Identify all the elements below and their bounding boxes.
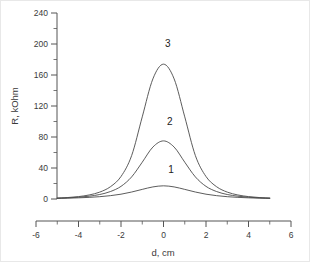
y-tick-label: 0 [43,194,48,204]
data-curve-3 [57,64,270,198]
y-tick-label: 160 [34,70,48,80]
curve-label-2: 2 [167,116,173,127]
x-tick-label: -6 [32,230,40,240]
y-tick-label: 200 [34,39,48,49]
x-tick-labels: -6 -4 -2 0 2 4 6 [32,230,293,240]
curve-annotations: 1 2 3 [165,38,174,175]
chart-figure: 0 40 80 120 160 200 240 -6 -4 [0,0,311,263]
x-tick-label: -4 [75,230,83,240]
x-axis-title: d, cm [151,247,174,258]
y-tick-labels: 0 40 80 120 160 200 240 [34,8,48,204]
y-tick-label: 120 [34,101,48,111]
y-axis-title: R, kOhm [9,87,20,125]
x-axis-ticks [36,221,291,227]
y-tick-label: 40 [39,163,49,173]
curve-label-3: 3 [165,38,171,49]
curve-label-1: 1 [168,164,174,175]
x-tick-label: 2 [204,230,209,240]
data-curves [57,64,270,198]
line-chart-canvas: 0 40 80 120 160 200 240 -6 -4 [0,0,311,263]
x-tick-label: 0 [161,230,166,240]
y-tick-label: 80 [39,132,49,142]
y-axis-ticks [51,13,57,199]
x-tick-label: 6 [289,230,294,240]
data-curve-2 [57,141,270,198]
y-tick-label: 240 [34,8,48,18]
x-tick-label: 4 [246,230,251,240]
x-tick-label: -2 [117,230,125,240]
